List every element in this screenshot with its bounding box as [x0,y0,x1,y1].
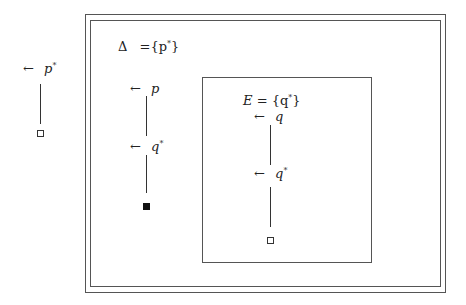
filled-square-icon [143,203,150,210]
sup: * [159,139,163,148]
outer-chain-label-1: ← p [130,82,159,95]
left-sup: * [52,61,56,70]
e-title: E = {q*} [243,94,301,107]
left-chain-label: ← p* [23,62,56,75]
arrow-icon: ← [130,139,141,154]
outer-chain-label-2: ← q* [130,140,163,153]
outer-chain-edge-1 [146,96,147,136]
hollow-square-icon [37,130,44,137]
left-chain-edge [40,84,41,124]
hollow-square-icon [267,237,274,244]
arrow-icon: ← [254,109,265,124]
e-close: } [292,93,300,108]
delta-close: } [171,39,179,54]
delta-symbol: Δ [118,39,127,54]
arrow-icon: ← [130,81,141,96]
delta-eq: ={p [140,39,168,54]
inner-chain-label-1: ← q [254,110,283,123]
inner-chain-label-2: ← q* [254,167,287,180]
outer-chain-edge-2 [146,155,147,193]
e-eq: = {q [253,93,289,108]
inner-chain-edge-1 [270,125,271,165]
inner-chain-edge-2 [270,187,271,227]
var: q [275,109,283,124]
var: p [151,81,159,96]
sup: * [283,166,287,175]
e-var: E [243,93,253,108]
left-arrow-icon: ← [23,61,34,76]
arrow-icon: ← [254,166,265,181]
delta-title: Δ ={p*} [118,40,179,53]
